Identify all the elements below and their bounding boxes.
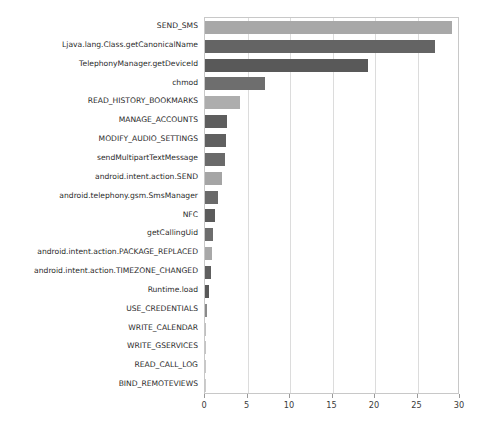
bar-row [205, 56, 458, 75]
category-label: NFC [0, 206, 198, 225]
category-label: WRITE_GSERVICES [0, 337, 198, 356]
category-label: Runtime.load [0, 281, 198, 300]
bar [205, 323, 206, 336]
bar-row [205, 207, 458, 226]
bar-row [205, 320, 458, 339]
category-label: sendMultipartTextMessage [0, 149, 198, 168]
bar [205, 266, 211, 279]
x-tick [417, 394, 418, 398]
category-label: Ljava.lang.Class.getCanonicalName [0, 36, 198, 55]
x-tick [204, 394, 205, 398]
x-axis: 051015202530 [204, 394, 459, 424]
category-label: WRITE_CALENDAR [0, 319, 198, 338]
category-label: READ_CALL_LOG [0, 356, 198, 375]
x-tick-label: 25 [402, 400, 432, 410]
category-label: getCallingUid [0, 224, 198, 243]
bar [205, 153, 225, 166]
x-tick-label: 20 [359, 400, 389, 410]
bar-row [205, 93, 458, 112]
category-label: MANAGE_ACCOUNTS [0, 111, 198, 130]
bar [205, 40, 435, 53]
bar-row [205, 112, 458, 131]
x-tick [332, 394, 333, 398]
bar-row [205, 169, 458, 188]
x-tick [374, 394, 375, 398]
x-tick [289, 394, 290, 398]
bar-row [205, 282, 458, 301]
bar-row [205, 263, 458, 282]
bar [205, 379, 206, 392]
bar-row [205, 188, 458, 207]
bar [205, 360, 206, 373]
category-label: USE_CREDENTIALS [0, 300, 198, 319]
x-tick [459, 394, 460, 398]
x-tick-label: 15 [317, 400, 347, 410]
x-tick-label: 10 [274, 400, 304, 410]
bar-row [205, 225, 458, 244]
x-tick-label: 0 [189, 400, 219, 410]
category-axis-labels: SEND_SMSLjava.lang.Class.getCanonicalNam… [0, 17, 200, 394]
bar-row [205, 244, 458, 263]
bar [205, 172, 222, 185]
bar-row [205, 338, 458, 357]
bar-row [205, 301, 458, 320]
bar [205, 209, 215, 222]
bar [205, 96, 240, 109]
bar-row [205, 37, 458, 56]
bar [205, 285, 209, 298]
bar-row [205, 150, 458, 169]
bar [205, 59, 368, 72]
plot-area [204, 17, 459, 394]
category-label: MODIFY_AUDIO_SETTINGS [0, 130, 198, 149]
bar [205, 77, 265, 90]
category-label: TelephonyManager.getDeviceId [0, 55, 198, 74]
bar [205, 341, 206, 354]
category-label: chmod [0, 74, 198, 93]
bar [205, 21, 452, 34]
category-label: BIND_REMOTEVIEWS [0, 375, 198, 394]
category-label: android.intent.action.TIMEZONE_CHANGED [0, 262, 198, 281]
category-label: SEND_SMS [0, 17, 198, 36]
x-tick [247, 394, 248, 398]
category-label: android.intent.action.SEND [0, 168, 198, 187]
bar [205, 304, 207, 317]
x-tick-label: 30 [444, 400, 474, 410]
bar-row [205, 357, 458, 376]
bar-chart: SEND_SMSLjava.lang.Class.getCanonicalNam… [0, 0, 477, 432]
bar-row [205, 75, 458, 94]
bar [205, 115, 227, 128]
bar-row [205, 18, 458, 37]
bar-row [205, 376, 458, 395]
bar [205, 228, 213, 241]
x-tick-label: 5 [232, 400, 262, 410]
category-label: android.telephony.gsm.SmsManager [0, 187, 198, 206]
bar [205, 191, 218, 204]
bar [205, 134, 226, 147]
bar [205, 247, 212, 260]
bar-row [205, 131, 458, 150]
category-label: android.intent.action.PACKAGE_REPLACED [0, 243, 198, 262]
category-label: READ_HISTORY_BOOKMARKS [0, 92, 198, 111]
